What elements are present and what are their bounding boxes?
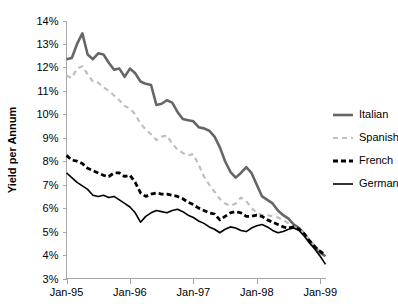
legend-label-french: French xyxy=(359,154,393,166)
x-tick-label: Jan-98 xyxy=(240,286,274,298)
legend-label-german: German xyxy=(359,177,398,189)
y-tick-label: 9% xyxy=(43,132,59,144)
chart-canvas: Yield per Annum 3%4%5%6%7%8%9%10%11%12%1… xyxy=(0,0,398,304)
legend-label-spanish: Spanish xyxy=(359,131,398,143)
yield-chart: Yield per Annum 3%4%5%6%7%8%9%10%11%12%1… xyxy=(0,0,398,304)
series-lines xyxy=(67,33,326,264)
y-tick-label: 5% xyxy=(43,226,59,238)
y-axis-ticks: 3%4%5%6%7%8%9%10%11%12%13%14% xyxy=(36,15,66,285)
y-tick-label: 14% xyxy=(36,15,58,27)
y-tick-label: 10% xyxy=(36,108,58,120)
x-tick-label: Jan-97 xyxy=(177,286,211,298)
legend-label-italian: Italian xyxy=(359,108,388,120)
x-tick-label: Jan-96 xyxy=(113,286,147,298)
y-tick-label: 7% xyxy=(43,179,59,191)
y-tick-label: 6% xyxy=(43,202,59,214)
x-tick-label: Jan-95 xyxy=(50,286,84,298)
chart-legend: ItalianSpanishFrenchGerman xyxy=(333,108,398,189)
y-tick-label: 13% xyxy=(36,38,58,50)
series-line-french xyxy=(67,155,326,255)
y-tick-label: 12% xyxy=(36,61,58,73)
y-axis-title: Yield per Annum xyxy=(6,106,18,193)
y-tick-label: 8% xyxy=(43,155,59,167)
y-tick-label: 11% xyxy=(37,85,58,97)
y-tick-label: 3% xyxy=(43,273,59,285)
y-tick-label: 4% xyxy=(43,249,59,261)
x-axis-ticks: Jan-95Jan-96Jan-97Jan-98Jan-99 xyxy=(50,279,337,298)
series-line-spanish xyxy=(67,66,326,255)
x-tick-label: Jan-99 xyxy=(303,286,337,298)
